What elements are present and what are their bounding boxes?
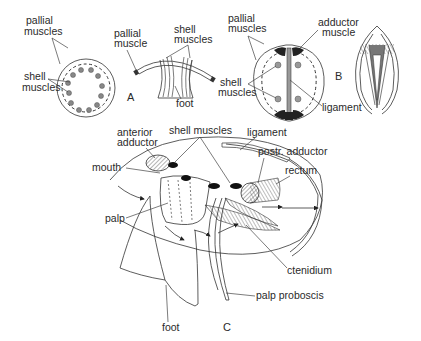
label-shell-muscles-b-2: muscles (218, 86, 257, 98)
figure-b-side-view (356, 26, 399, 114)
label-shell-muscles-a-side-2: muscles (174, 33, 213, 45)
figure-label-c: C (223, 321, 231, 333)
label-ctenidium: ctenidium (287, 264, 332, 276)
label-pallial-muscles-b-2: muscles (228, 22, 267, 34)
shell-muscle-scars (66, 68, 105, 113)
figure-a-side-view: pallial muscle shell muscles foot A (114, 23, 216, 109)
label-foot-c: foot (162, 321, 180, 333)
figure-b-top-view: pallial muscles adductor muscle shell mu… (218, 12, 362, 121)
label-mouth: mouth (92, 161, 121, 173)
label-palp-proboscis: palp proboscis (256, 289, 324, 301)
label-shell-muscles-c: shell muscles (169, 124, 232, 136)
label-adductor-muscle-b-2: muscle (322, 26, 355, 38)
label-rectum: rectum (285, 164, 317, 176)
label-anterior-adductor-2: adductor (117, 136, 158, 148)
label-shell-muscles-a-2: muscles (22, 81, 61, 93)
label-ligament-b: ligament (322, 101, 362, 113)
label-palp: palp (105, 212, 125, 224)
figure-label-b: B (335, 70, 342, 82)
label-postr-adductor: postr. adductor (258, 145, 328, 157)
label-pallial-muscle-a-2: muscle (114, 37, 147, 49)
label-foot-a: foot (176, 97, 194, 109)
label-pallial-muscles-a-2: muscles (24, 25, 63, 37)
bivalve-anatomy-diagram: pallial muscles shell muscles pallial mu… (0, 0, 421, 341)
label-ligament-c: ligament (247, 126, 287, 138)
figure-a-top-view: pallial muscles shell muscles (22, 14, 115, 117)
figure-label-a: A (127, 91, 135, 103)
figure-c-internal-anatomy: anterior adductor shell muscles ligament… (92, 124, 332, 333)
